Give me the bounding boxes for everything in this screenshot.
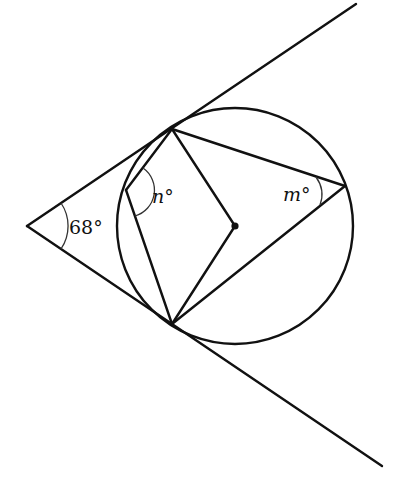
diagram-svg: 68° n° m° [0,0,402,481]
geometry-diagram: 68° n° m° [0,0,402,481]
angle-label-m: m° [283,183,311,205]
angle-label-n: n° [152,185,174,207]
angle-arc-68 [61,203,68,249]
angle-label-68: 68° [69,216,103,238]
radius-bottom [172,226,235,324]
angle-arc-m [316,177,322,205]
tangent-line-bottom [27,226,382,466]
chord-top-to-right [172,129,345,186]
chord-left-to-bottom [126,190,172,324]
center-point [231,222,238,229]
chord-bottom-to-right [172,186,345,324]
chord-top-to-left [126,129,172,190]
radius-top [172,129,235,226]
